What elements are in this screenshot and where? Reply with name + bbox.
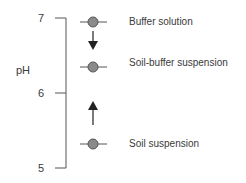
marker-circle-icon — [88, 139, 98, 149]
tick-label-6: 6 — [38, 87, 44, 99]
tick-label-5: 5 — [38, 162, 44, 174]
marker-soil-buffer-suspension — [80, 62, 107, 72]
marker-circle-icon — [88, 17, 98, 27]
marker-buffer-solution — [80, 17, 107, 27]
marker-circle-icon — [88, 62, 98, 72]
point-label-soil-suspension: Soil suspension — [129, 138, 199, 150]
arrow-down-icon — [88, 31, 98, 50]
ph-axis — [55, 18, 66, 168]
arrow-up-icon — [88, 101, 98, 125]
ph-diagram — [0, 0, 246, 183]
point-label-soil-buffer-suspension: Soil-buffer suspension — [129, 57, 228, 69]
marker-soil-suspension — [80, 139, 107, 149]
point-label-buffer-solution: Buffer solution — [129, 16, 193, 28]
axis-label: pH — [16, 64, 30, 76]
tick-label-7: 7 — [38, 12, 44, 24]
